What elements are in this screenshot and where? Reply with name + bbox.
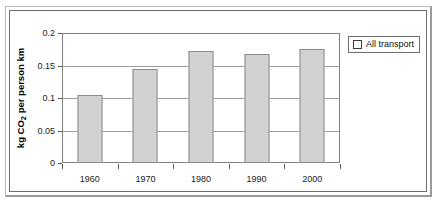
x-axis-tick-mark [62,164,63,169]
y-axis-title-subscript: 2 [19,116,28,120]
y-axis-tick-label: 0 [2,158,55,168]
y-axis-tick-label: 0.2 [2,28,55,38]
x-axis-tick-label: 1960 [62,174,118,184]
y-axis-title: kg CO2 per person km [14,33,28,163]
legend-swatch-icon [353,40,362,49]
x-axis-tick-mark [229,164,230,169]
x-axis-tick-mark [173,164,174,169]
bar-chart: 00.050.10.150.2 19601970198019902000 kg … [0,0,439,208]
bars-layer [62,33,340,163]
legend-label-all-transport: All transport [366,39,414,49]
bar-2000[interactable] [300,49,325,163]
y-axis-tick-mark [58,66,62,67]
x-axis-tick-mark [284,164,285,169]
x-axis-tick-mark [118,164,119,169]
x-axis-tick-label: 2000 [284,174,340,184]
bar-1990[interactable] [244,54,269,163]
bar-1980[interactable] [188,51,213,163]
x-axis-tick-label: 1980 [173,174,229,184]
bar-slot [173,33,229,163]
y-axis-tick-label: 0.1 [2,93,55,103]
x-axis-tick-label: 1990 [229,174,285,184]
y-axis-title-suffix: per person km [15,48,26,116]
y-axis-tick-mark [58,98,62,99]
y-axis-tick-mark [58,33,62,34]
y-axis-tick-mark [58,163,62,164]
bar-slot [229,33,285,163]
bar-slot [118,33,174,163]
y-axis-tick-label: 0.15 [2,61,55,71]
figure-root: 00.050.10.150.2 19601970198019902000 kg … [0,0,439,208]
x-axis-tick-label: 1970 [118,174,174,184]
bar-slot [284,33,340,163]
bar-slot [62,33,118,163]
x-axis-tick-mark [340,164,341,169]
bar-1960[interactable] [77,95,102,163]
y-axis-tick-mark [58,131,62,132]
bar-1970[interactable] [133,69,158,163]
legend: All transport [348,36,420,53]
y-axis-tick-label: 0.05 [2,126,55,136]
y-axis-title-prefix: kg CO [15,120,26,148]
